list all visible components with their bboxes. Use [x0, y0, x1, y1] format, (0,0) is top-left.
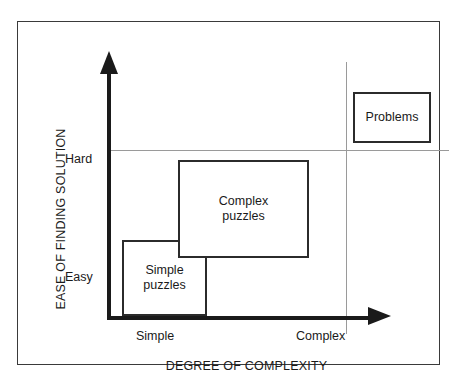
region-label-simple-puzzles: Simple puzzles [143, 263, 185, 294]
x-tick-label-complex: Complex [296, 329, 345, 343]
y-axis-title: EASE OF FINDING SOLUTION [54, 94, 68, 344]
y-tick-label-easy: Easy [65, 270, 93, 284]
x-axis-title: DEGREE OF COMPLEXITY [35, 359, 458, 373]
region-box-complex-puzzles: Complex puzzles [178, 160, 309, 258]
x-axis-line [107, 316, 372, 320]
x-axis-arrowhead-icon [368, 307, 391, 325]
y-tick-label-hard: Hard [65, 152, 92, 166]
guideline-horizontal-hard [107, 150, 449, 151]
region-label-complex-puzzles: Complex puzzles [219, 194, 268, 225]
region-box-problems: Problems [353, 92, 431, 143]
guideline-vertical-complex [346, 62, 347, 334]
figure-diagram: Simple puzzles Complex puzzles Problems … [0, 0, 461, 384]
region-label-problems: Problems [366, 110, 419, 125]
x-tick-label-simple: Simple [136, 329, 174, 343]
y-axis-line [107, 72, 111, 320]
figure-frame: Simple puzzles Complex puzzles Problems … [17, 21, 440, 365]
clipped-caption-remnant [22, 0, 322, 6]
y-axis-arrowhead-icon [100, 51, 118, 74]
